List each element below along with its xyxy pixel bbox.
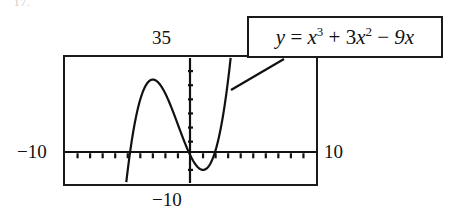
equation-equals: =: [290, 25, 302, 49]
equation-term2-exp: 2: [366, 24, 373, 39]
equation-lhs: y: [276, 25, 285, 49]
equation-term3: 9x: [394, 25, 414, 49]
equation-term1-base: x: [307, 25, 316, 49]
plot-frame: [63, 55, 318, 186]
equation-op1: +: [329, 25, 341, 49]
y-max-label: 35: [152, 28, 171, 47]
equation-term1-exp: 3: [317, 24, 324, 39]
equation-term2-base: x: [356, 25, 365, 49]
equation-term2-coef: 3: [346, 25, 357, 49]
x-min-label: −10: [17, 142, 47, 161]
graph-figure: 17. 35 −10 10 −10 y = x3 + 3x2 − 9x: [0, 0, 456, 220]
equation-callout: y = x3 + 3x2 − 9x: [247, 16, 443, 58]
equation-op2: −: [377, 25, 389, 49]
page-artifact-text: 17.: [14, 0, 31, 8]
equation-text: y = x3 + 3x2 − 9x: [276, 27, 414, 48]
x-max-label: 10: [324, 142, 343, 161]
y-min-label: −10: [152, 190, 182, 209]
